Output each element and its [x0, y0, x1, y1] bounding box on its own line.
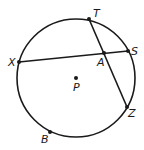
point-X — [17, 60, 21, 64]
chord-TZ — [89, 19, 127, 107]
label-P: P — [73, 81, 80, 94]
label-A: A — [96, 56, 105, 69]
label-B: B — [41, 133, 49, 146]
label-S: S — [131, 45, 138, 58]
chord-XS — [19, 51, 128, 62]
label-X: X — [7, 56, 16, 69]
label-Z: Z — [127, 107, 136, 120]
point-S — [126, 49, 130, 53]
circle-diagram: T S X Z B A P — [0, 0, 144, 150]
point-B — [48, 130, 52, 134]
label-T: T — [93, 7, 101, 20]
point-P — [74, 76, 78, 80]
point-T — [87, 17, 91, 21]
point-A — [102, 51, 106, 55]
